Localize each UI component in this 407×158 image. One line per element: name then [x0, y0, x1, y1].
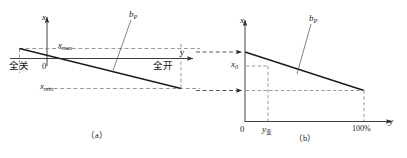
panel-a-curve-symbol: b: [129, 9, 134, 19]
panel-b-yvar-subscript: 变: [266, 129, 272, 135]
panel-a-curve-subscript: P: [134, 13, 138, 20]
panel-b-x-axis-label: x: [240, 16, 244, 25]
panel-a-right-state-label: 全开: [153, 61, 174, 71]
panel-a-y-axis-label: y: [180, 48, 184, 57]
panel-b-fullscale-label: 100%: [352, 125, 371, 133]
panel-b-curve-label: bP: [309, 14, 317, 23]
panel-b-caption: （b）: [294, 134, 316, 143]
panel-b-curve-leader: [297, 24, 311, 74]
panel-a-xmax-label: xmax: [58, 41, 72, 50]
panel-b-characteristic-line: [245, 52, 364, 91]
panel-b-yvar-label: y变: [262, 125, 272, 134]
panel-b-y-axis-label: y: [389, 117, 393, 126]
panel-a-xmin-subscript: min: [44, 85, 53, 92]
panel-a-x-axis-label: x: [42, 13, 46, 22]
panel-b-x0-subscript: 0: [235, 63, 238, 70]
panel-a-left-state-label: 全关: [9, 61, 30, 71]
panel-a-xmax-subscript: max: [62, 44, 72, 51]
panel-a-curve-label: bP: [129, 10, 137, 19]
figure-drawing: [0, 0, 407, 158]
panel-a-origin-label: 0: [42, 62, 46, 71]
panel-b-x0-label: x0: [231, 60, 238, 69]
panel-b-drawing: [196, 20, 392, 122]
panel-a-curve-leader: [113, 20, 131, 71]
panel-b-curve-subscript: P: [314, 17, 318, 24]
panel-a-drawing: [10, 17, 200, 89]
panel-a-caption: （a）: [86, 131, 108, 140]
panel-b-origin-label: 0: [240, 125, 244, 134]
panel-b-curve-symbol: b: [309, 13, 314, 23]
panel-a-xmin-label: xmin: [40, 82, 53, 91]
figure-container: x y 0 xmax xmin 全关 全开 bP （a） x y 0 x0 y变…: [0, 0, 407, 158]
